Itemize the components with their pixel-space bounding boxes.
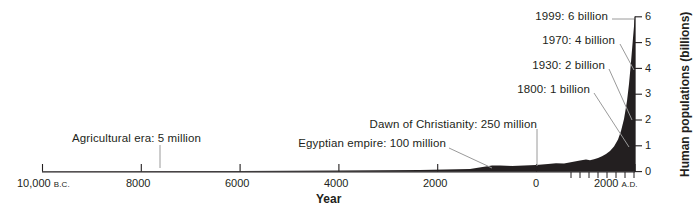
x-axis-title: Year (316, 192, 341, 206)
x-tick-label-4000: 4000 (324, 178, 348, 189)
chart-plot-area (0, 0, 697, 208)
x-tick-label-8000: 8000 (126, 178, 150, 189)
y-tick-label-6: 6 (645, 11, 651, 22)
y-tick-label-0: 0 (645, 166, 651, 177)
annotation-1930: 1930: 2 billion (485, 60, 605, 72)
x-tick-label-2000bc: 2000 (423, 178, 447, 189)
y-tick-label-5: 5 (645, 37, 651, 48)
annotation-egyptian-empire: Egyptian empire: 100 million (286, 138, 446, 150)
annotation-agricultural-era: Agricultural era: 5 million (72, 133, 201, 145)
x-tick-label-10000bc: 10,000 B.C. (17, 178, 70, 189)
y-tick-label-1: 1 (645, 140, 651, 151)
annotation-1970: 1970: 4 billion (495, 35, 615, 47)
y-tick-label-3: 3 (645, 88, 651, 99)
leader-egyptian-empire (449, 148, 492, 168)
x-tick-label-0: 0 (533, 178, 539, 189)
y-tick-label-2: 2 (645, 114, 651, 125)
x-tick-label-6000: 6000 (225, 178, 249, 189)
annotation-dawn-of-christianity: Dawn of Christianity: 250 million (351, 119, 537, 131)
y-tick-label-4: 4 (645, 63, 651, 74)
annotation-1999: 1999: 6 billion (488, 11, 608, 23)
x-tick-label-2000ad: 2000 A.D. (594, 178, 638, 189)
annotation-1800: 1800: 1 billion (470, 84, 590, 96)
y-axis-ticks (635, 17, 642, 172)
y-axis-title: Human populations (billions) (678, 12, 692, 177)
population-growth-chart: 10,000 B.C. 8000 6000 4000 2000 0 2000 A… (0, 0, 697, 208)
